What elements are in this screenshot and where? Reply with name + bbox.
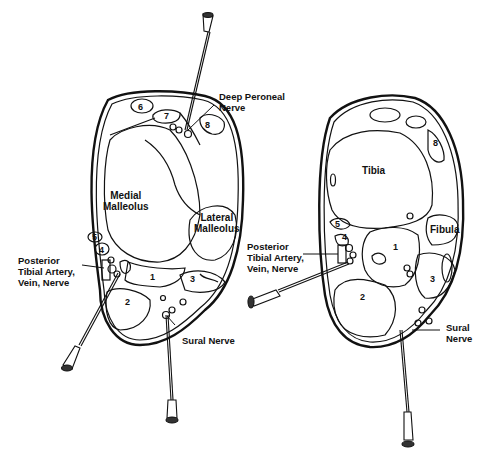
svg-text:7: 7: [164, 111, 169, 121]
svg-text:8: 8: [433, 138, 438, 148]
svg-text:5: 5: [335, 219, 340, 229]
label-posterior-tibial-right: Posterior Tibial Artery, Vein, Nerve: [247, 241, 304, 274]
svg-text:2: 2: [125, 297, 130, 307]
svg-text:8: 8: [205, 120, 210, 130]
svg-text:1: 1: [150, 272, 155, 282]
label-posterior-tibial-left: Posterior Tibial Artery, Vein, Nerve: [18, 255, 75, 288]
label-lateral-malleolus: Lateral Malleolus: [194, 212, 240, 234]
right-cross-section: [319, 95, 463, 347]
label-sural-nerve-left: Sural Nerve: [182, 335, 235, 346]
svg-text:4: 4: [99, 245, 104, 255]
label-fibula: Fibula: [430, 224, 459, 235]
label-sural-nerve-right: Sural Nerve: [446, 322, 472, 344]
svg-text:3: 3: [190, 274, 195, 284]
svg-text:2: 2: [360, 292, 365, 302]
ankle-diagram: 6 7 8 1 2 3 4 5 8 1 2 3 4 5: [0, 0, 489, 455]
label-medial-malleolus: Medial Malleolus: [103, 190, 149, 212]
needle-deep-peroneal: [185, 13, 213, 131]
svg-text:4: 4: [342, 232, 347, 242]
needle-sural-left: [166, 315, 178, 423]
svg-text:5: 5: [92, 232, 97, 242]
svg-text:3: 3: [430, 274, 435, 284]
label-deep-peroneal-nerve: Deep Peroneal Nerve: [219, 91, 285, 113]
svg-text:1: 1: [393, 242, 398, 252]
svg-text:6: 6: [138, 102, 143, 112]
needle-sural-right: [400, 330, 414, 447]
label-tibia: Tibia: [362, 165, 385, 176]
